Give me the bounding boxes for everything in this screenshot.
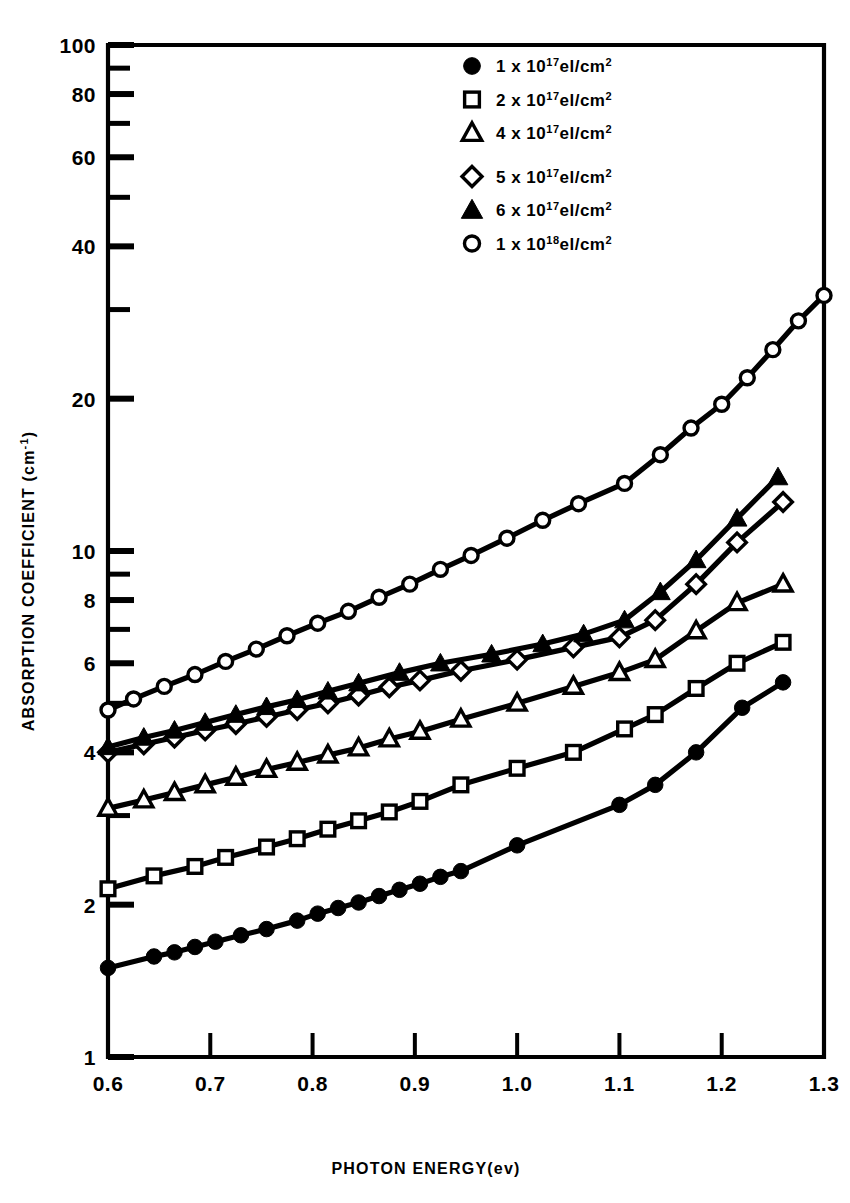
x-tick-label: 0.9 [400, 1072, 431, 1095]
marker-open-circle [280, 629, 294, 643]
marker-open-circle [341, 604, 355, 618]
marker-open-triangle [165, 783, 183, 799]
marker-open-circle [715, 397, 729, 411]
marker-open-circle [433, 562, 447, 576]
x-tick-label: 1.0 [502, 1072, 533, 1095]
marker-open-circle [740, 371, 754, 385]
marker-open-square [290, 832, 304, 846]
marker-open-circle [536, 513, 550, 527]
marker-open-circle [188, 668, 202, 682]
marker-open-triangle [135, 791, 153, 807]
marker-open-circle [684, 421, 698, 435]
marker-open-square [454, 778, 468, 792]
legend-entry-0: 1 x 1017el/cm2 [496, 56, 612, 76]
marker-open-square [101, 882, 115, 896]
marker-open-triangle [774, 575, 792, 591]
x-axis-ticks: 0.60.70.80.91.01.11.21.3 [93, 1033, 840, 1095]
marker-filled-circle [509, 838, 525, 854]
marker-filled-triangle [768, 467, 788, 485]
marker-filled-circle [453, 863, 469, 879]
marker-filled-circle [100, 960, 116, 976]
series-5 [101, 288, 831, 717]
marker-open-circle [249, 642, 263, 656]
figure-container: 1246810204060801000.60.70.80.91.01.11.21… [0, 0, 850, 1203]
marker-open-triangle [99, 799, 117, 815]
marker-open-triangle [411, 722, 429, 738]
marker-open-square [147, 869, 161, 883]
marker-open-square [188, 860, 202, 874]
marker-open-square [465, 92, 480, 107]
y-tick-label: 20 [72, 388, 96, 411]
legend: 1 x 1017el/cm22 x 1017el/cm24 x 1017el/c… [461, 56, 612, 254]
x-tick-label: 1.2 [706, 1072, 737, 1095]
marker-filled-circle [330, 900, 346, 916]
marker-open-square [618, 722, 632, 736]
legend-entry-4: 6 x 1017el/cm2 [496, 200, 612, 220]
marker-filled-circle [146, 949, 162, 965]
marker-filled-circle [351, 895, 367, 911]
marker-open-square [321, 822, 335, 836]
marker-open-triangle [288, 753, 306, 769]
marker-open-circle [618, 476, 632, 490]
marker-open-square [510, 761, 524, 775]
y-tick-label: 80 [72, 83, 96, 106]
y-tick-label: 4 [84, 741, 96, 764]
marker-open-circle [817, 288, 831, 302]
marker-open-circle [372, 590, 386, 604]
marker-filled-triangle [461, 199, 482, 218]
y-tick-label: 60 [72, 146, 96, 169]
marker-open-circle [464, 548, 478, 562]
marker-open-square [730, 656, 744, 670]
marker-filled-circle [412, 876, 428, 892]
marker-filled-circle [167, 945, 183, 961]
marker-open-square [352, 814, 366, 828]
marker-open-diamond [508, 650, 527, 669]
marker-filled-circle [233, 928, 249, 944]
marker-open-diamond [452, 661, 471, 680]
marker-filled-circle [734, 700, 750, 716]
y-tick-label: 1 [84, 1046, 96, 1069]
x-axis-title: PHOTON ENERGY(ev) [331, 1160, 520, 1177]
marker-open-circle [403, 577, 417, 591]
marker-open-square [413, 795, 427, 809]
marker-open-diamond [610, 628, 629, 647]
legend-entry-2: 4 x 1017el/cm2 [496, 123, 612, 143]
marker-open-circle [219, 654, 233, 668]
marker-filled-circle [464, 58, 481, 75]
marker-open-circle [653, 448, 667, 462]
marker-filled-circle [208, 934, 224, 950]
legend-entry-1: 2 x 1017el/cm2 [496, 90, 612, 110]
marker-open-circle [157, 679, 171, 693]
marker-open-square [776, 635, 790, 649]
y-tick-label: 10 [72, 540, 96, 563]
y-tick-label: 40 [72, 235, 96, 258]
marker-open-square [689, 682, 703, 696]
marker-open-triangle [258, 760, 276, 776]
marker-open-circle [311, 616, 325, 630]
marker-open-triangle [564, 677, 582, 693]
x-tick-label: 0.8 [297, 1072, 328, 1095]
marker-open-triangle [728, 593, 746, 609]
marker-open-circle [127, 692, 141, 706]
y-axis-ticks: 124681020406080100 [59, 34, 134, 1069]
marker-open-triangle [196, 775, 214, 791]
marker-open-square [382, 805, 396, 819]
marker-filled-circle [289, 913, 305, 929]
y-axis-title-text: ABSORPTION COEFFICIENT (cm-1) [18, 431, 37, 732]
marker-open-square [219, 851, 233, 865]
marker-open-diamond [462, 166, 482, 186]
x-tick-label: 0.7 [195, 1072, 226, 1095]
series-line [108, 502, 783, 752]
marker-open-triangle [319, 746, 337, 762]
y-tick-label: 6 [84, 652, 96, 675]
marker-filled-circle [392, 882, 408, 898]
marker-filled-circle [371, 888, 387, 904]
y-tick-label: 8 [84, 589, 96, 612]
marker-filled-circle [612, 797, 628, 813]
marker-open-circle [791, 314, 805, 328]
marker-open-triangle [380, 730, 398, 746]
x-tick-label: 0.6 [93, 1072, 124, 1095]
marker-open-triangle [350, 739, 368, 755]
absorption-coefficient-chart: 1246810204060801000.60.70.80.91.01.11.21… [0, 0, 850, 1203]
marker-filled-circle [647, 777, 663, 793]
